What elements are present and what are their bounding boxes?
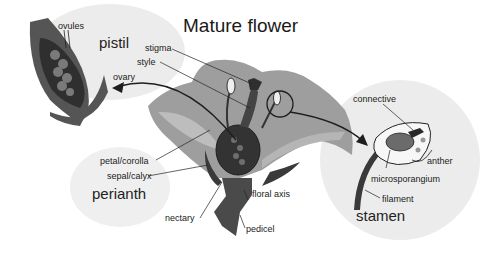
- label-filament: filament: [382, 195, 414, 204]
- label-ovary: ovary: [113, 73, 135, 82]
- label-stigma: stigma: [145, 44, 172, 53]
- group-label-stamen: stamen: [356, 208, 405, 223]
- label-ovules: ovules: [58, 22, 84, 31]
- label-pedicel: pedicel: [246, 225, 275, 234]
- label-style: style: [137, 58, 156, 67]
- group-label-pistil: pistil: [99, 35, 129, 50]
- page-title: Mature flower: [183, 16, 298, 35]
- group-label-perianth: perianth: [92, 186, 146, 201]
- flower-diagram: Mature flower pistil perianth stamen ovu…: [0, 0, 480, 256]
- label-nectary: nectary: [165, 214, 195, 223]
- label-microsporangium: microsporangium: [371, 175, 440, 184]
- diagram-graphic: [0, 0, 480, 256]
- label-petal-corolla: petal/corolla: [100, 157, 149, 166]
- label-anther: anther: [427, 157, 453, 166]
- label-floral-axis: floral axis: [252, 190, 290, 199]
- label-connective: connective: [353, 95, 396, 104]
- label-sepal-calyx: sepal/calyx: [107, 172, 152, 181]
